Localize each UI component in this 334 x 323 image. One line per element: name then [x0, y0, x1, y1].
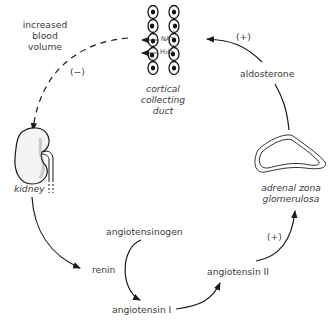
h2o-label: H₂O — [160, 49, 173, 56]
kidney-label: kidney — [14, 183, 45, 194]
negative-feedback-sign: (−) — [70, 66, 85, 77]
label-line: cortical — [131, 83, 195, 94]
label-line: glomerulosa — [254, 193, 328, 204]
label-line: blood — [14, 30, 76, 41]
angiotensin-i-to-ii-arrow — [176, 283, 220, 309]
renin-label: renin — [92, 264, 115, 275]
adrenal-to-aldosterone-line — [275, 84, 289, 130]
adrenal-gland-icon — [255, 135, 326, 172]
aldosterone-label: aldosterone — [240, 68, 294, 79]
aldosterone-to-duct-arrow — [207, 39, 262, 62]
label-line: duct — [131, 105, 195, 116]
label-line: adrenal zona — [254, 182, 328, 193]
angiotensin-i-label: angiotensin I — [112, 304, 171, 315]
cortical-collecting-duct-label: cortical collecting duct — [131, 83, 195, 116]
kidney-to-renin-arrow — [32, 197, 80, 268]
aldosterone-effect-sign: (+) — [236, 31, 251, 42]
na-ion-label: NA⁺ — [161, 36, 174, 43]
angiotensin-ii-effect-sign: (+) — [267, 231, 282, 242]
increased-blood-volume-label: increased blood volume — [14, 19, 76, 52]
angiotensinogen-label: angiotensinogen — [106, 226, 183, 237]
label-line: increased — [14, 19, 76, 30]
label-line: volume — [14, 41, 76, 52]
angiotensinogen-to-angiotensin-i-arrow — [125, 240, 141, 300]
angiotensin-ii-label: angiotensin II — [207, 266, 269, 277]
label-line: collecting — [131, 94, 195, 105]
adrenal-zona-glomerulosa-label: adrenal zona glomerulosa — [254, 182, 328, 204]
